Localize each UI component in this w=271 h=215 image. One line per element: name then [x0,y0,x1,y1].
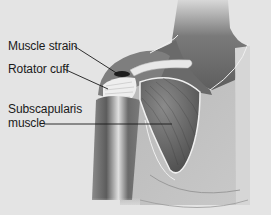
muscle-strain-spot [114,71,130,77]
label-muscle-strain: Muscle strain [8,40,77,53]
label-subscapularis-line2: muscle [8,117,45,130]
shoulder-anatomy-diagram: Muscle strain Rotator cuff Subscapularis… [0,0,271,215]
leader-line-rotator-cuff [64,69,108,89]
leader-line-muscle-strain [74,46,118,74]
label-subscapularis-line1: Subscapularis [8,103,82,116]
label-rotator-cuff: Rotator cuff [8,63,69,76]
